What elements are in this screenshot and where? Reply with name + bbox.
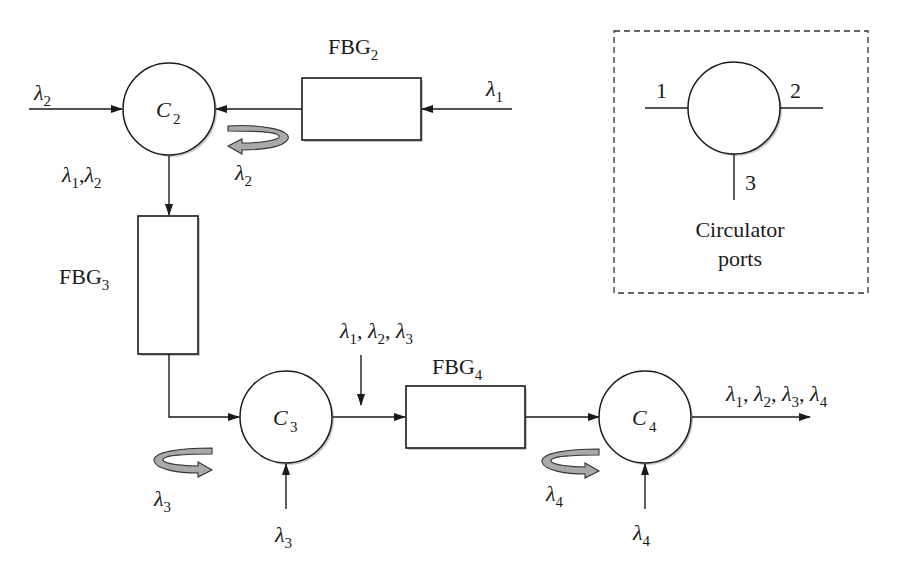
legend-caption-line1: Circulator: [695, 217, 785, 242]
svg-text:λ1, λ2, λ3, λ4: λ1, λ2, λ3, λ4: [725, 381, 828, 410]
circulator-c4: C 4: [599, 371, 693, 465]
add-input-lambda2: λ2: [29, 80, 122, 109]
port-3-label: 3: [745, 170, 756, 195]
legend-caption-line2: ports: [718, 246, 762, 271]
svg-text:2: 2: [173, 111, 181, 127]
fbg3-grating: FBG3: [59, 216, 200, 356]
c2-output-to-fbg3: λ1,λ2 λ1,λ2: [61, 156, 169, 215]
circulator-c2: C 2: [123, 63, 217, 157]
svg-text:λ3: λ3: [274, 522, 292, 551]
svg-text:λ2: λ2: [234, 160, 252, 189]
svg-text:FBG4: FBG4: [432, 354, 483, 383]
add-input-lambda4: λ4: [632, 464, 651, 549]
svg-text:λ2: λ2: [33, 80, 51, 109]
svg-text:λ1: λ1: [485, 76, 503, 105]
input-lambda1: λ1: [422, 76, 512, 109]
svg-text:3: 3: [290, 419, 298, 435]
port-2-label: 2: [790, 78, 801, 103]
svg-text:FBG3: FBG3: [59, 264, 109, 293]
final-output: λ1, λ2, λ3, λ4 λ1, λ2, λ3, λ4: [692, 381, 828, 417]
reflection-curl-c4: λ4: [542, 449, 599, 510]
svg-text:FBG2: FBG2: [328, 34, 378, 63]
circulator-ports-legend: 1 2 3 Circulator ports: [614, 31, 868, 293]
svg-text:C: C: [273, 405, 288, 430]
c3-to-fbg4-link: λ1, λ2, λ3 λ1, λ2, λ3: [333, 318, 413, 417]
reflection-curl-c2: λ2: [228, 126, 288, 189]
fbg-add-multiplexer-diagram: λ2 C 2 FBG2 λ1 λ2 λ1,λ2 λ1,λ2 FBG3: [0, 0, 901, 572]
fbg3-to-c3-link: [169, 354, 239, 417]
svg-text:λ1,λ2: λ1,λ2: [61, 162, 102, 191]
fbg4-grating: FBG4: [406, 354, 527, 450]
svg-text:λ1, λ2, λ3: λ1, λ2, λ3: [339, 318, 413, 347]
svg-text:λ3: λ3: [153, 486, 171, 515]
fbg2-grating: FBG2: [302, 34, 423, 142]
svg-text:4: 4: [649, 419, 657, 435]
svg-text:C: C: [156, 97, 171, 122]
circulator-c3: C 3: [240, 371, 334, 465]
svg-text:λ4: λ4: [632, 520, 651, 549]
svg-text:C: C: [632, 405, 647, 430]
svg-text:λ4: λ4: [545, 481, 564, 510]
add-input-lambda3: λ3: [274, 464, 292, 551]
port-1-label: 1: [656, 78, 667, 103]
reflection-curl-c3: λ3: [153, 448, 212, 515]
